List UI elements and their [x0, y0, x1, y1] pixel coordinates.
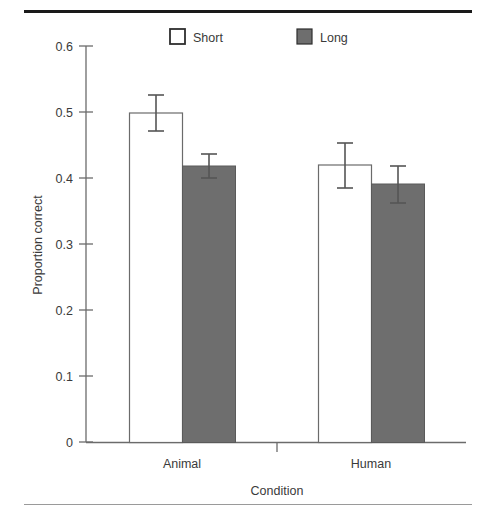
bar-animal-short — [130, 113, 183, 443]
figure-container: Short Long 0.6 0.5 0.4 0.3 0.2 0.1 0 Pro… — [0, 0, 494, 523]
chart-legend: Short Long — [170, 29, 348, 45]
bar-human-long — [372, 184, 425, 443]
legend-swatch-short — [170, 29, 185, 44]
y-tick-label-0.5: 0.5 — [56, 106, 73, 120]
bar-animal-long — [183, 166, 236, 443]
y-tick-label-0.3: 0.3 — [56, 238, 73, 252]
x-category-label-human: Human — [351, 457, 391, 471]
bar-human-short — [319, 165, 372, 443]
legend-label-short: Short — [193, 31, 223, 45]
y-tick-label-0.6: 0.6 — [56, 40, 73, 54]
x-category-label-animal: Animal — [163, 457, 201, 471]
bar-group-human — [319, 143, 425, 443]
bar-chart: Short Long 0.6 0.5 0.4 0.3 0.2 0.1 0 Pro… — [0, 0, 494, 523]
y-tick-label-0.4: 0.4 — [56, 172, 73, 186]
y-axis-title: Proportion correct — [31, 195, 45, 295]
x-axis-title: Condition — [251, 484, 304, 498]
bar-group-animal — [130, 95, 236, 443]
y-tick-label-0.1: 0.1 — [56, 370, 73, 384]
x-axis: Animal Human Condition — [86, 442, 466, 498]
y-axis: 0.6 0.5 0.4 0.3 0.2 0.1 0 Proportion cor… — [31, 40, 93, 450]
y-tick-label-0.2: 0.2 — [56, 304, 73, 318]
y-tick-label-0: 0 — [66, 436, 73, 450]
legend-swatch-long — [297, 29, 312, 44]
legend-label-long: Long — [320, 31, 348, 45]
